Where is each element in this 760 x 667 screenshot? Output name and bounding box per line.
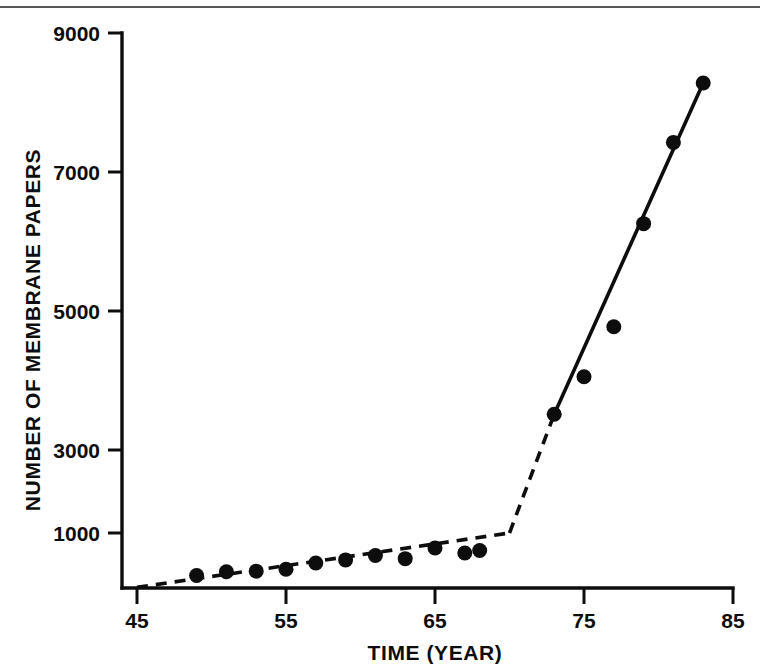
data-point <box>577 369 592 384</box>
data-point-group <box>189 76 711 584</box>
data-point <box>308 556 323 571</box>
figure-canvas: 9000 7000 5000 3000 1000 45 55 65 75 85 … <box>0 0 760 667</box>
chart-plot-area: 9000 7000 5000 3000 1000 45 55 65 75 85 … <box>0 0 760 667</box>
x-tick-label-75: 75 <box>572 609 596 632</box>
data-point <box>279 562 294 577</box>
data-point <box>666 135 681 150</box>
y-axis-title: NUMBER OF MEMBRANE PAPERS <box>21 149 44 511</box>
data-point <box>189 568 204 583</box>
y-axis-ticks <box>108 33 122 533</box>
y-tick-label-7000: 7000 <box>53 161 100 184</box>
data-point <box>472 543 487 558</box>
y-tick-label-3000: 3000 <box>53 439 100 462</box>
y-tick-label-5000: 5000 <box>53 300 100 323</box>
data-point <box>219 564 234 579</box>
y-tick-label-9000: 9000 <box>53 22 100 45</box>
trend-line-group <box>137 83 703 587</box>
x-tick-label-55: 55 <box>274 609 298 632</box>
x-axis-tick-labels: 45 55 65 75 85 <box>125 609 745 632</box>
x-tick-label-45: 45 <box>125 609 149 632</box>
data-point <box>398 551 413 566</box>
data-point <box>606 319 621 334</box>
y-tick-label-1000: 1000 <box>53 522 100 545</box>
data-point <box>636 216 651 231</box>
data-point <box>547 407 562 422</box>
data-point <box>428 541 443 556</box>
data-point <box>696 76 711 91</box>
data-point <box>338 552 353 567</box>
x-axis-ticks <box>137 588 733 604</box>
trend-line-late-rapid-growth-fit <box>554 83 703 414</box>
x-tick-label-65: 65 <box>423 609 447 632</box>
data-point <box>249 564 264 579</box>
trend-line-late-rapid-growth-trend <box>510 414 555 533</box>
x-axis-title: TIME (YEAR) <box>368 641 503 664</box>
data-point <box>368 548 383 563</box>
x-tick-label-85: 85 <box>721 609 745 632</box>
data-point <box>457 546 472 561</box>
y-axis-tick-labels: 9000 7000 5000 3000 1000 <box>53 22 100 545</box>
